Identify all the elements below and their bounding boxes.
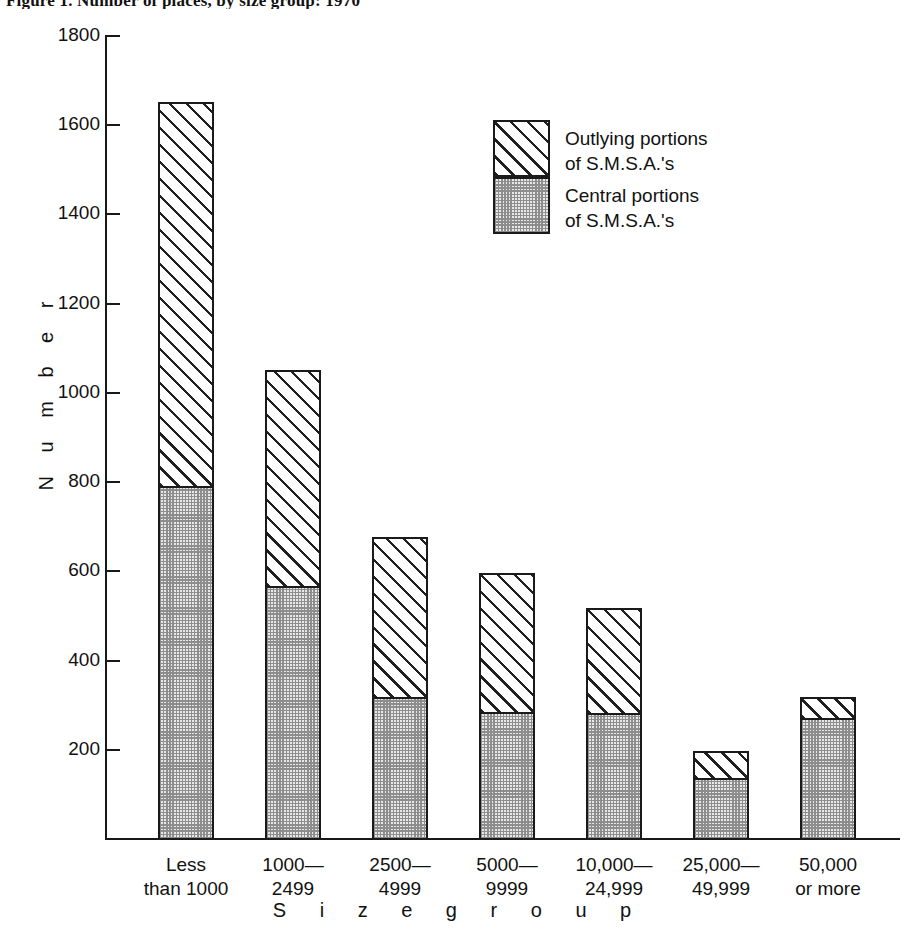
bar-segment-central-4 bbox=[479, 712, 535, 840]
x-category-label-7: 50,000 or more bbox=[758, 853, 898, 901]
y-axis-title: N u m b e r bbox=[35, 262, 58, 522]
bar-segment-outlying-2 bbox=[265, 370, 321, 588]
bar-segment-central-7 bbox=[800, 718, 856, 840]
y-tick-label-1400: 1400 bbox=[40, 203, 100, 222]
bar-group-7 bbox=[800, 697, 856, 840]
y-tick-1800 bbox=[107, 35, 120, 37]
y-tick-800 bbox=[107, 481, 120, 483]
legend-swatch-central-icon bbox=[493, 177, 550, 234]
bar-segment-outlying-7 bbox=[800, 697, 856, 720]
bar-segment-central-5 bbox=[586, 713, 642, 840]
legend-label-outlying: Outlying portions of S.M.S.A.'s bbox=[565, 126, 708, 176]
bar-group-6 bbox=[693, 751, 749, 840]
y-tick-200 bbox=[107, 749, 120, 751]
bar-segment-central-3 bbox=[372, 697, 428, 840]
bar-segment-central-2 bbox=[265, 586, 321, 840]
legend-swatch-outlying-icon bbox=[493, 120, 550, 177]
bar-group-5 bbox=[586, 608, 642, 840]
bar-group-2 bbox=[265, 370, 321, 840]
legend-swatch-group bbox=[493, 120, 550, 234]
bar-group-3 bbox=[372, 537, 428, 840]
chart-plot-area: 1800 1600 1400 1200 1000 800 600 400 200… bbox=[0, 0, 918, 946]
bar-segment-outlying-4 bbox=[479, 573, 535, 714]
y-tick-label-600: 600 bbox=[40, 560, 100, 579]
y-tick-1000 bbox=[107, 392, 120, 394]
y-tick-label-200: 200 bbox=[40, 739, 100, 758]
y-tick-label-1800: 1800 bbox=[40, 25, 100, 44]
y-tick-label-1600: 1600 bbox=[40, 114, 100, 133]
bar-segment-outlying-1 bbox=[158, 102, 214, 488]
y-tick-600 bbox=[107, 570, 120, 572]
legend: Outlying portions of S.M.S.A.'s Central … bbox=[493, 120, 793, 234]
bar-group-4 bbox=[479, 573, 535, 840]
bar-segment-central-1 bbox=[158, 486, 214, 840]
legend-label-central: Central portions of S.M.S.A.'s bbox=[565, 183, 699, 233]
y-tick-1600 bbox=[107, 124, 120, 126]
y-axis-line bbox=[105, 35, 107, 840]
bar-segment-outlying-3 bbox=[372, 537, 428, 699]
bar-segment-outlying-5 bbox=[586, 608, 642, 715]
y-tick-1200 bbox=[107, 303, 120, 305]
y-tick-label-400: 400 bbox=[40, 650, 100, 669]
x-axis-title: S i z e g r o u p bbox=[0, 899, 918, 922]
y-tick-1400 bbox=[107, 213, 120, 215]
bar-segment-central-6 bbox=[693, 778, 749, 840]
y-tick-400 bbox=[107, 660, 120, 662]
bar-group-1 bbox=[158, 102, 214, 840]
bar-segment-outlying-6 bbox=[693, 751, 749, 780]
